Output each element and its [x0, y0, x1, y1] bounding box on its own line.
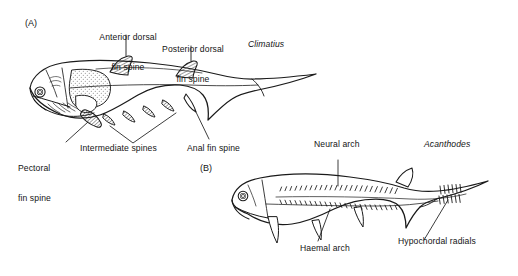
taxon-name-climatius: Climatius: [248, 39, 284, 49]
label-neural-arch: Neural arch: [314, 139, 360, 149]
acanthodes-dorsal-fin: [396, 168, 413, 187]
label-anal-fin-spine: Anal fin spine: [187, 143, 240, 153]
intermediate-spines-bracket: [110, 113, 176, 143]
intermediate-spine-4: [162, 100, 174, 111]
anal-fin-spine-leader: [195, 110, 209, 139]
taxon-name-acanthodes: Acanthodes: [424, 139, 470, 149]
label-posterior-dorsal-fin-spine: Posterior dorsal fin spine: [150, 24, 236, 94]
panel-b-acanthodes: [232, 160, 488, 243]
label-posterior-dorsal-fin-spine-line1: Posterior dorsal: [150, 44, 236, 54]
anal-fin-spine-shape: [184, 94, 196, 112]
acanthodes-eye-star-highlight: [240, 193, 245, 198]
pectoral-fin-spine-leader: [66, 122, 88, 142]
panel-label-b: (B): [200, 163, 212, 173]
label-posterior-dorsal-fin-spine-line2: fin spine: [150, 74, 236, 84]
acanthodes-anal-fin: [354, 207, 363, 227]
acanthodes-pectoral-fin: [268, 217, 279, 243]
label-haemal-arch: Haemal arch: [300, 243, 350, 253]
label-pectoral-fin-spine: Pectoral fin spine: [18, 143, 51, 213]
label-pectoral-fin-spine-line1: Pectoral: [18, 163, 51, 173]
label-intermediate-spines: Intermediate spines: [80, 143, 157, 153]
label-hypochordal-radials: Hypochordal radials: [398, 236, 476, 246]
climatius-eye-star-highlight: [37, 89, 43, 95]
intermediate-spine-2: [123, 111, 135, 122]
label-pectoral-fin-spine-line2: fin spine: [18, 193, 51, 203]
hypochordal-radials-leader: [424, 200, 448, 240]
panel-label-a: (A): [25, 18, 37, 28]
acanthodes-pelvic-fin: [312, 220, 321, 240]
intermediate-spine-1: [103, 114, 115, 125]
intermediate-spine-3: [143, 106, 155, 117]
